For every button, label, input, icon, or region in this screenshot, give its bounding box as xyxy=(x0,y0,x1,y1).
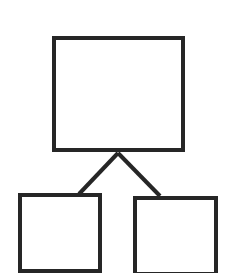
node-root[interactable] xyxy=(54,38,183,150)
node-child-left-box[interactable] xyxy=(20,195,100,271)
edge-root-to-left xyxy=(79,153,118,194)
edge-layer xyxy=(79,153,160,196)
diagram-canvas xyxy=(0,0,234,273)
hierarchy-tree-diagram xyxy=(0,0,234,273)
node-child-right-box[interactable] xyxy=(135,198,216,273)
node-root-box[interactable] xyxy=(54,38,183,150)
node-child-right[interactable] xyxy=(135,198,216,273)
edge-root-to-right xyxy=(118,153,160,196)
node-child-left[interactable] xyxy=(20,195,100,271)
